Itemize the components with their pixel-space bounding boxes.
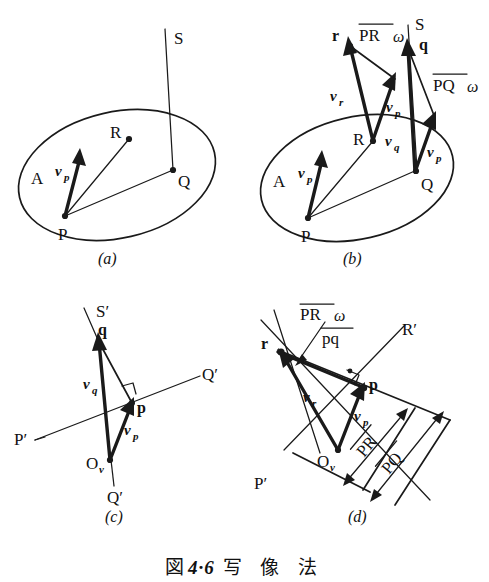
point-p-dot	[62, 213, 68, 219]
dimension-pr-arrow-top	[396, 408, 408, 421]
panel-d-caption: (d)	[348, 508, 367, 526]
label-vector-vq: v	[83, 376, 90, 392]
label-vector-vq: v	[385, 133, 392, 149]
point-r-dot	[126, 136, 132, 142]
label-axis-q-prime-right: Q′	[202, 365, 218, 384]
label-vector-vp-sub: p	[132, 430, 139, 442]
vector-vp-arrowhead	[314, 150, 328, 168]
point-r-img-dot	[347, 43, 353, 49]
figure-caption: 図4·6写 像 法	[0, 552, 489, 579]
point-ov-dot	[107, 457, 113, 463]
label-region-a: A	[273, 172, 286, 191]
vector-vp-arrowhead	[72, 148, 86, 166]
label-point-r: R	[110, 123, 122, 142]
label-vector-vp: v	[55, 163, 62, 179]
label-point-ov: O	[317, 452, 329, 471]
label-vector-vp-sub: p	[63, 171, 70, 183]
point-q-img-dot	[96, 339, 102, 345]
point-q-img-dot	[405, 45, 411, 51]
label-point-p-img: p	[369, 376, 378, 394]
label-ratio-numerator: PR	[300, 305, 321, 324]
panel-d: r p O v P′ R′ v r v p PR ω pq PR PQ	[245, 290, 489, 505]
label-point-r: R	[353, 130, 365, 149]
label-vector-vp: v	[354, 408, 361, 424]
segment-pq	[65, 170, 173, 216]
label-vector-vp-at-q-sub: p	[435, 152, 442, 164]
panel-b-caption: (b)	[343, 250, 362, 268]
label-pq-omega-bar: PQ	[433, 76, 455, 95]
label-vector-vq-sub: q	[394, 141, 400, 153]
label-len-pq: PQ	[378, 449, 407, 478]
label-point-r-img: r	[332, 27, 339, 44]
panel-a: A P Q R S v p	[0, 0, 245, 250]
point-p-img-dot	[129, 400, 135, 406]
dimension-pq-arrow-bottom	[370, 489, 382, 502]
figure-container: A P Q R S v p (a)	[0, 0, 489, 582]
segment-pq	[308, 170, 417, 218]
label-vector-vr: v	[330, 88, 337, 104]
line-s	[165, 29, 173, 170]
label-vector-vp-sub: p	[306, 173, 313, 185]
label-point-q: Q	[178, 172, 190, 191]
panel-c: S′ q p O v P′ Q′ Q′ v q v p	[0, 290, 245, 505]
figure-caption-label: 図	[165, 557, 184, 578]
label-region-a: A	[31, 169, 44, 188]
label-vector-vp: v	[124, 422, 131, 438]
panel-a-caption: (a)	[98, 250, 117, 268]
label-vector-vp-at-r-sub: p	[394, 107, 401, 119]
label-vector-vq-sub: q	[92, 384, 98, 396]
label-axis-p-prime: P′	[254, 474, 267, 493]
label-pr-omega-bar: PR	[359, 26, 380, 45]
line-q-prime-down	[111, 460, 114, 486]
label-point-ov-sub: v	[99, 463, 104, 475]
panel-b: A P Q R S r q v r v p v q v p v p PR ω P…	[245, 0, 489, 250]
label-point-q-img: q	[98, 321, 107, 339]
vector-vq-shaft	[408, 48, 415, 172]
label-len-pq-group: PQ	[375, 441, 412, 479]
label-vector-vr: v	[303, 389, 310, 405]
label-vector-vp-sub: p	[362, 416, 369, 428]
figure-caption-title: 写 像 法	[223, 557, 325, 578]
label-vector-vp-at-r: v	[386, 99, 393, 115]
label-axis-r-prime: R′	[402, 320, 417, 339]
label-vector-vr-sub: r	[312, 397, 317, 409]
label-axis-p-prime: P′	[14, 430, 27, 449]
label-len-pr: PR	[353, 432, 381, 461]
label-vector-vp-at-q: v	[427, 144, 434, 160]
figure-caption-number: 4·6	[188, 557, 215, 578]
label-point-q-img: q	[419, 36, 428, 54]
point-ov-dot	[335, 447, 341, 453]
label-pq-omega-sym: ω	[467, 78, 478, 95]
axis-pprime-qprime	[35, 376, 200, 440]
point-rprime-mark	[348, 369, 353, 374]
label-axis-q-prime-bottom: Q′	[107, 488, 123, 507]
point-q-dot	[170, 167, 176, 173]
label-point-ov: O	[86, 454, 98, 473]
label-vector-vr-sub: r	[339, 96, 344, 108]
label-ratio-omega: ω	[334, 307, 345, 324]
point-r-img-dot	[277, 348, 284, 355]
label-point-q: Q	[421, 175, 433, 194]
label-point-p-img: p	[137, 399, 146, 417]
point-r-dot	[370, 138, 376, 144]
label-ratio-denominator: pq	[322, 329, 340, 348]
label-point-p: P	[58, 225, 67, 244]
label-point-ov-sub: v	[330, 461, 335, 473]
panel-c-caption: (c)	[105, 508, 123, 526]
point-q-dot	[413, 168, 419, 174]
point-p-img-dot	[361, 385, 367, 391]
point-p-dot	[305, 215, 311, 221]
label-point-s: S	[415, 15, 424, 34]
label-point-s: S	[174, 29, 183, 48]
label-point-s-prime: S′	[96, 302, 109, 321]
label-pr-omega-sym: ω	[393, 28, 404, 45]
label-vector-vp: v	[298, 165, 305, 181]
label-len-pr-group: PR	[350, 425, 386, 462]
label-point-r-img: r	[261, 335, 268, 352]
label-point-p: P	[301, 227, 310, 246]
